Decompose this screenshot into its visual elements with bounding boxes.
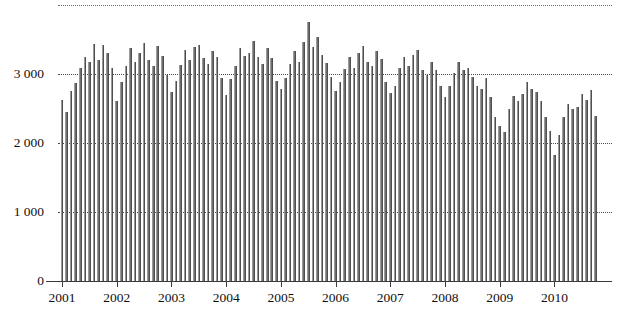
x-tick-label-2010: 2010	[541, 290, 568, 306]
x-tick-2003	[171, 281, 172, 287]
x-tick-2010	[554, 281, 555, 287]
x-tick-label-2001: 2001	[49, 290, 76, 306]
x-tick-label-2009: 2009	[486, 290, 513, 306]
x-tick-2004	[226, 281, 227, 287]
x-tick-2007	[390, 281, 391, 287]
x-tick-label-2007: 2007	[377, 290, 404, 306]
x-tick-2005	[281, 281, 282, 287]
bar-chart: 01 0002 0003 000 20012002200320042005200…	[0, 0, 629, 314]
x-tick-label-2004: 2004	[213, 290, 240, 306]
x-tick-label-2003: 2003	[158, 290, 185, 306]
x-tick-2006	[336, 281, 337, 287]
x-tick-label-2005: 2005	[267, 290, 294, 306]
x-tick-2001	[62, 281, 63, 287]
x-axis-labels: 2001200220032004200520062007200820092010	[0, 0, 629, 314]
x-tick-label-2008: 2008	[432, 290, 459, 306]
x-tick-2008	[445, 281, 446, 287]
x-tick-label-2006: 2006	[322, 290, 349, 306]
x-tick-2009	[500, 281, 501, 287]
x-tick-2002	[117, 281, 118, 287]
x-tick-label-2002: 2002	[103, 290, 130, 306]
